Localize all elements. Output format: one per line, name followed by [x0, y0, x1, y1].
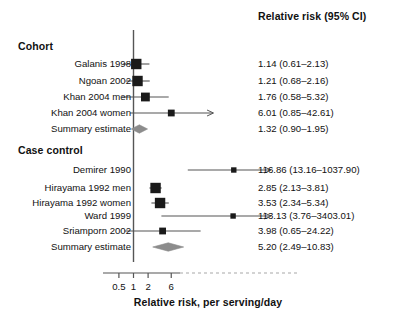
- study-label: Galanis 1998: [0, 59, 131, 69]
- study-label: Hirayama 1992 men: [0, 183, 131, 193]
- point-estimate-marker: [231, 167, 236, 172]
- x-axis-tick-label: 1: [131, 282, 136, 292]
- point-estimate-marker: [230, 213, 235, 218]
- study-label: Summary estimate: [0, 242, 131, 252]
- study-label: Ward 1999: [0, 211, 131, 221]
- x-axis-tick-label: 2: [145, 282, 150, 292]
- effect-value: 3.98 (0.65–24.22): [258, 226, 334, 236]
- effect-value: 2.85 (2.13–3.81): [258, 183, 328, 193]
- effect-value: 1.21 (0.68–2.16): [258, 76, 328, 86]
- x-axis-tick-label: 0.5: [112, 282, 125, 292]
- forest-plot-canvas: [0, 0, 416, 318]
- point-estimate-marker: [141, 93, 150, 102]
- study-label: Hirayama 1992 women: [0, 198, 131, 208]
- study-label: Khan 2004 men: [0, 92, 131, 102]
- point-estimate-marker: [132, 76, 142, 86]
- x-axis-tick-label: 6: [169, 282, 174, 292]
- effect-value: 3.53 (2.34–5.34): [258, 198, 328, 208]
- study-label: Ngoan 2002: [0, 76, 131, 86]
- point-estimate-marker: [150, 183, 160, 193]
- group-heading-case-control: Case control: [18, 145, 83, 156]
- study-label: Summary estimate: [0, 124, 131, 134]
- effect-value: 116.86 (13.16–1037.90): [258, 165, 360, 175]
- study-label: Demirer 1990: [0, 165, 131, 175]
- effect-value: 1.14 (0.61–2.13): [258, 59, 328, 69]
- effect-column-header: Relative risk (95% CI): [258, 11, 366, 22]
- effect-value: 1.32 (0.90–1.95): [258, 124, 328, 134]
- point-estimate-marker: [131, 59, 141, 69]
- group-heading-cohort: Cohort: [18, 41, 53, 52]
- effect-value: 1.76 (0.58–5.32): [258, 92, 328, 102]
- x-axis-title: Relative risk, per serving/day: [134, 297, 282, 308]
- point-estimate-marker: [155, 198, 165, 208]
- effect-value: 5.20 (2.49–10.83): [258, 242, 334, 252]
- point-estimate-marker: [159, 228, 166, 235]
- summary-diamond: [153, 243, 184, 251]
- effect-value: 113.13 (3.76–3403.01): [258, 211, 354, 221]
- study-label: Khan 2004 women: [0, 108, 131, 118]
- study-label: Sriamporn 2002: [0, 226, 131, 236]
- effect-value: 6.01 (0.85–42.61): [258, 108, 334, 118]
- point-estimate-marker: [168, 110, 175, 117]
